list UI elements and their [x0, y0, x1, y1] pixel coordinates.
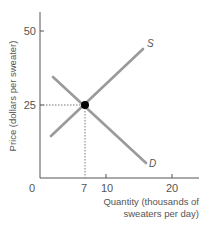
y-tick-label-50: 50 [24, 25, 36, 37]
y-axis-label: Price (dollars per sweater) [7, 41, 18, 152]
supply-label: S [147, 38, 154, 49]
demand-label: D [149, 158, 156, 169]
x-axis-label-line1: Quantity (thousands of [103, 196, 199, 207]
x-tick-label-20: 20 [166, 182, 178, 194]
supply-curve [51, 49, 143, 136]
x-axis-label-line2: sweaters per day) [123, 208, 199, 219]
y-tick-label-25: 25 [24, 99, 36, 111]
equilibrium-point [81, 101, 89, 109]
x-tick-label-10: 10 [101, 182, 113, 194]
x-tick-label-7: 7 [81, 182, 87, 194]
supply-demand-chart: 50 25 0 7 10 20 Price (dollars per sweat… [0, 0, 211, 226]
origin-label: 0 [29, 182, 35, 194]
